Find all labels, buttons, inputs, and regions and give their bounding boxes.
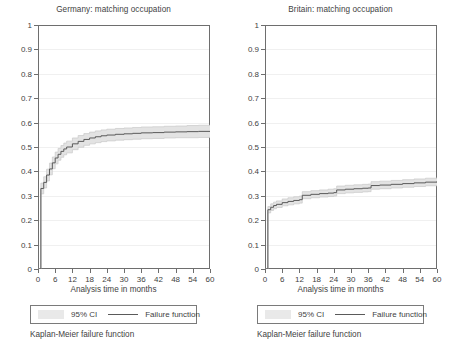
x-tick-mark (299, 269, 300, 273)
panel-title-britain: Britain: matching occupation (227, 5, 454, 14)
legend-germany: 95% CI Failure function (30, 305, 197, 324)
x-tick-mark (72, 269, 73, 273)
x-tick-mark (107, 269, 108, 273)
y-tick-label: 0.3 (4, 191, 32, 200)
figure-canvas: Germany: matching occupation 00.10.20.30… (0, 0, 454, 350)
legend-line-label: Failure function (145, 310, 200, 319)
y-tick-mark (34, 98, 38, 99)
y-tick-label: 0.9 (231, 45, 259, 54)
y-tick-label: 0.5 (231, 143, 259, 152)
x-tick-mark (385, 269, 386, 273)
panel-germany: Germany: matching occupation 00.10.20.30… (0, 0, 227, 350)
y-tick-mark (261, 49, 265, 50)
y-tick-mark (34, 123, 38, 124)
y-tick-mark (261, 147, 265, 148)
legend-ci-swatch (38, 310, 64, 319)
y-tick-label: 0.4 (4, 167, 32, 176)
curve-svg-germany (38, 25, 210, 269)
y-tick-mark (34, 245, 38, 246)
y-tick-label: 1 (4, 21, 32, 30)
y-tick-label: 0.6 (231, 118, 259, 127)
x-tick-mark (351, 269, 352, 273)
y-tick-label: 0.7 (231, 94, 259, 103)
x-tick-mark (176, 269, 177, 273)
x-tick-mark (282, 269, 283, 273)
y-tick-mark (261, 196, 265, 197)
y-tick-mark (261, 25, 265, 26)
y-tick-mark (34, 49, 38, 50)
curve-svg-britain (265, 25, 437, 269)
y-tick-mark (261, 245, 265, 246)
legend-line-label: Failure function (372, 310, 427, 319)
legend-line-sample (108, 314, 138, 315)
y-tick-mark (34, 220, 38, 221)
x-axis-title-britain: Analysis time in months (227, 285, 454, 294)
x-tick-label: 60 (425, 275, 449, 284)
x-tick-mark (403, 269, 404, 273)
y-tick-label: 0.1 (231, 240, 259, 249)
x-tick-mark (368, 269, 369, 273)
legend-line-sample (335, 314, 365, 315)
y-tick-mark (261, 171, 265, 172)
x-tick-mark (437, 269, 438, 273)
y-tick-mark (34, 196, 38, 197)
failure-function-line (265, 181, 437, 269)
y-tick-label: 0 (231, 265, 259, 274)
y-tick-label: 0.8 (4, 69, 32, 78)
panel-title-germany: Germany: matching occupation (0, 5, 227, 14)
plot-area-germany (38, 25, 210, 269)
x-tick-mark (158, 269, 159, 273)
panel-britain: Britain: matching occupation 00.10.20.30… (227, 0, 454, 350)
legend-ci-label: 95% CI (298, 310, 324, 319)
y-tick-label: 0.1 (4, 240, 32, 249)
caption-germany: Kaplan-Meier failure function (30, 330, 134, 339)
y-tick-mark (261, 123, 265, 124)
y-tick-mark (34, 171, 38, 172)
y-tick-label: 0.9 (4, 45, 32, 54)
x-tick-mark (90, 269, 91, 273)
x-tick-mark (317, 269, 318, 273)
y-tick-mark (34, 147, 38, 148)
y-tick-mark (261, 74, 265, 75)
y-tick-mark (261, 98, 265, 99)
x-axis-title-germany: Analysis time in months (0, 285, 227, 294)
x-tick-mark (265, 269, 266, 273)
y-tick-label: 0.2 (4, 216, 32, 225)
y-tick-label: 0.6 (4, 118, 32, 127)
ci-edge (38, 137, 210, 269)
y-tick-label: 0.2 (231, 216, 259, 225)
y-tick-mark (34, 74, 38, 75)
y-tick-label: 1 (231, 21, 259, 30)
y-tick-label: 0.4 (231, 167, 259, 176)
x-tick-mark (420, 269, 421, 273)
x-tick-label: 60 (198, 275, 222, 284)
y-tick-label: 0.5 (4, 143, 32, 152)
y-tick-label: 0.3 (231, 191, 259, 200)
caption-britain: Kaplan-Meier failure function (257, 330, 361, 339)
y-tick-label: 0 (4, 265, 32, 274)
y-tick-label: 0.7 (4, 94, 32, 103)
ci-band (265, 178, 437, 270)
x-tick-mark (210, 269, 211, 273)
x-tick-mark (55, 269, 56, 273)
legend-britain: 95% CI Failure function (257, 305, 424, 324)
y-tick-mark (34, 25, 38, 26)
x-tick-mark (334, 269, 335, 273)
plot-area-britain (265, 25, 437, 269)
failure-function-line (38, 131, 210, 269)
x-tick-mark (193, 269, 194, 273)
y-tick-mark (261, 220, 265, 221)
ci-band (38, 125, 210, 269)
y-tick-label: 0.8 (231, 69, 259, 78)
x-tick-mark (38, 269, 39, 273)
legend-ci-swatch (265, 310, 291, 319)
legend-ci-label: 95% CI (71, 310, 97, 319)
x-tick-mark (124, 269, 125, 273)
x-tick-mark (141, 269, 142, 273)
